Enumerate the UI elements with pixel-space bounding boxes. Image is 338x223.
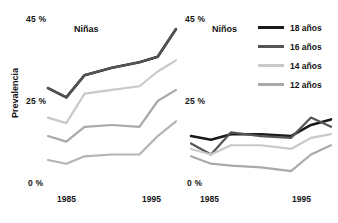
legend-item-12[interactable]: 12 años [258,75,336,94]
left-panel-plot [48,18,176,184]
right-xtick-1985: 1985 [200,194,219,204]
left-xtick-1995: 1995 [142,194,161,204]
right-xtick-1995: 1995 [292,194,311,204]
series-line-lowest [48,121,176,163]
series-line-16-años [48,29,176,97]
left-panel-svg [48,18,176,184]
series-line-14-años [191,134,331,154]
legend-label-12: 12 años [290,80,322,90]
left-ytick-25: 25 % [26,96,46,106]
legend-item-18[interactable]: 18 años [258,18,336,37]
legend-label-14: 14 años [290,61,322,71]
legend-swatch-16 [258,45,284,48]
legend-swatch-14 [258,64,284,67]
legend-item-14[interactable]: 14 años [258,56,336,75]
chart-figure: Prevalencia 45 % 25 % 0 % Niñas 1985 199… [0,0,338,223]
series-line-16-años [191,118,331,155]
series-line-14-años [48,60,176,123]
series-line-12-años [191,145,331,171]
legend-label-18: 18 años [290,23,322,33]
left-xtick-1985: 1985 [57,194,76,204]
legend-label-16: 16 años [290,42,322,52]
legend: 18 años 16 años 14 años 12 años [258,18,336,94]
y-axis-title: Prevalencia [10,58,20,128]
legend-swatch-12 [258,83,284,86]
series-line-18-años [48,29,176,97]
left-ytick-45: 45 % [26,14,46,24]
left-ytick-0: 0 % [28,178,43,188]
legend-item-16[interactable]: 16 años [258,37,336,56]
legend-swatch-18 [258,26,284,29]
